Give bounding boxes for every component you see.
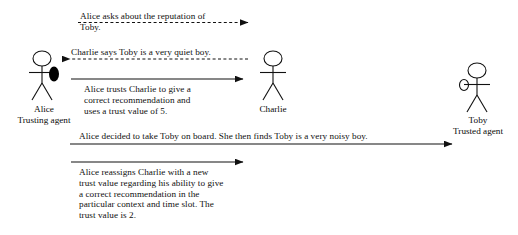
filled-ellipse-icon <box>49 67 59 82</box>
actor-alice-label: Alice Trusting agent <box>0 104 88 126</box>
actor-alice[interactable] <box>16 50 72 102</box>
message-label-m3: Alice trusts Charlie to give a correct r… <box>84 84 264 116</box>
message-label-m4: Alice decided to take Toby on board. She… <box>79 131 449 142</box>
message-label-m1: Alice asks about the reputation of Toby. <box>80 11 260 33</box>
stick-figure-icon <box>447 62 503 114</box>
actor-toby-label: Toby Trusted agent <box>440 115 516 137</box>
message-label-m2: Charlie says Toby is a very quiet boy. <box>71 47 271 58</box>
diagram-canvas: Alice Trusting agent Charlie Toby Truste… <box>0 0 518 235</box>
stick-figure-icon <box>16 50 72 102</box>
actor-toby[interactable] <box>447 62 503 114</box>
message-label-m5: Alice reassigns Charlie with a new trust… <box>79 167 269 221</box>
